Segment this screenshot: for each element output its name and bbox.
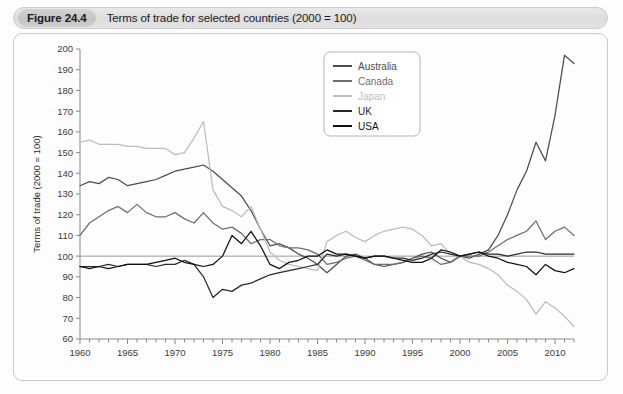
x-tick-label: 2010 bbox=[544, 347, 565, 358]
y-tick-label: 180 bbox=[57, 85, 73, 96]
legend-label-australia: Australia bbox=[358, 61, 397, 72]
y-axis-title: Terms of trade (2000 = 100) bbox=[31, 135, 42, 253]
series-line-usa bbox=[80, 231, 574, 274]
y-tick-label: 200 bbox=[57, 43, 73, 54]
chart-legend: AustraliaCanadaJapanUKUSA bbox=[324, 52, 420, 136]
x-tick-label: 1980 bbox=[259, 347, 280, 358]
figure-caption-bar: Figure 24.4 Terms of trade for selected … bbox=[13, 7, 608, 29]
x-tick-label: 1990 bbox=[354, 347, 375, 358]
plot-area-wrapper: 6070809010011012013014015016017018019020… bbox=[14, 34, 609, 382]
figure-number-badge: Figure 24.4 bbox=[18, 9, 96, 27]
y-tick-label: 150 bbox=[57, 147, 73, 158]
x-tick-label: 1960 bbox=[69, 347, 90, 358]
x-tick-label: 1995 bbox=[402, 347, 423, 358]
x-tick-label: 1985 bbox=[307, 347, 328, 358]
legend-label-uk: UK bbox=[358, 106, 372, 117]
figure-caption-text: Terms of trade for selected countries (2… bbox=[107, 12, 357, 24]
y-tick-label: 80 bbox=[62, 292, 73, 303]
line-chart: 6070809010011012013014015016017018019020… bbox=[14, 34, 609, 382]
y-tick-label: 70 bbox=[62, 313, 73, 324]
figure-container: Figure 24.4 Terms of trade for selected … bbox=[0, 0, 623, 394]
y-tick-label: 140 bbox=[57, 168, 73, 179]
legend-label-usa: USA bbox=[358, 121, 379, 132]
x-tick-label: 2000 bbox=[449, 347, 470, 358]
x-tick-label: 1975 bbox=[212, 347, 233, 358]
x-tick-label: 1970 bbox=[164, 347, 185, 358]
y-tick-label: 90 bbox=[62, 271, 73, 282]
y-tick-label: 190 bbox=[57, 64, 73, 75]
y-tick-label: 170 bbox=[57, 106, 73, 117]
y-tick-label: 130 bbox=[57, 188, 73, 199]
y-tick-label: 120 bbox=[57, 209, 73, 220]
x-tick-label: 1965 bbox=[117, 347, 138, 358]
y-tick-label: 160 bbox=[57, 126, 73, 137]
y-tick-label: 110 bbox=[58, 230, 73, 241]
legend-label-canada: Canada bbox=[358, 76, 393, 87]
x-tick-label: 2005 bbox=[497, 347, 518, 358]
legend-label-japan: Japan bbox=[358, 91, 385, 102]
y-tick-label: 60 bbox=[62, 333, 73, 344]
series-line-japan bbox=[80, 122, 574, 327]
series-line-canada bbox=[80, 204, 574, 264]
chart-panel: 6070809010011012013014015016017018019020… bbox=[13, 33, 608, 381]
y-tick-label: 100 bbox=[57, 251, 73, 262]
